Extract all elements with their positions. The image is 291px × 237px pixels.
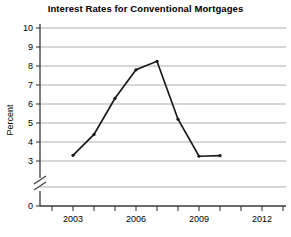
x-tick-label-2006: 2006 [126,214,146,224]
y-axis-break-icon [34,176,46,190]
y-tick-label-4: 4 [28,137,33,147]
chart-page: Interest Rates for Conventional Mortgage… [0,0,291,237]
data-point [71,154,74,157]
x-tick-labels: 2003 2006 2009 2012 [63,214,272,224]
data-point [218,154,221,157]
y-tick-label-3: 3 [28,156,33,166]
data-point [197,155,200,158]
y-tick-label-0: 0 [28,201,33,211]
x-tick-label-2003: 2003 [63,214,83,224]
x-tick-marks [52,206,283,211]
data-point [155,60,158,63]
x-tick-label-2009: 2009 [189,214,209,224]
y-tick-label-10: 10 [23,23,33,33]
x-tick-label-2012: 2012 [252,214,272,224]
y-tick-label-9: 9 [28,42,33,52]
data-point [134,68,137,71]
gridlines [40,28,286,187]
y-tick-label-8: 8 [28,61,33,71]
data-point [176,118,179,121]
y-tick-label-6: 6 [28,99,33,109]
y-tick-labels: 10 9 8 7 6 5 4 3 0 [23,23,33,211]
line-chart-plot: 10 9 8 7 6 5 4 3 0 Percent [0,0,291,237]
data-point [92,133,95,136]
data-point [113,97,116,100]
y-tick-label-5: 5 [28,118,33,128]
y-tick-label-7: 7 [28,80,33,90]
data-series-markers [71,60,221,158]
y-axis-label: Percent [5,104,15,136]
